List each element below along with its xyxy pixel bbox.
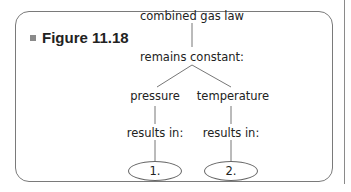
node-link-2: results in: xyxy=(203,126,260,140)
node-temperature: temperature xyxy=(197,89,269,103)
node-pressure: pressure xyxy=(130,89,180,103)
node-level2: remains constant: xyxy=(140,50,244,64)
node-root: combined gas law xyxy=(140,9,244,23)
connector-level2-pressure xyxy=(157,65,192,87)
answer-oval-2: 2. xyxy=(204,161,258,181)
node-link-1: results in: xyxy=(127,126,184,140)
answer-oval-1: 1. xyxy=(128,161,182,181)
connector-level2-temperature xyxy=(192,65,231,87)
